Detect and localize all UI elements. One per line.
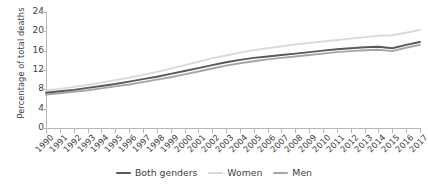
x-axis-tick-mark [337,129,338,133]
x-axis-tick-mark [323,129,324,133]
line-chart: Percentage of total deaths 04812162024 1… [0,0,428,189]
x-axis-tick-mark [378,129,379,133]
y-axis-tick-mark [42,51,46,52]
x-axis-tick-mark [240,129,241,133]
x-axis-tick-mark [309,129,310,133]
y-axis-tick-mark [42,70,46,71]
legend-swatch-icon [273,172,288,174]
legend-item-women[interactable]: Women [208,168,262,177]
x-axis-tick-mark [115,129,116,133]
x-axis-tick-mark [392,129,393,133]
x-axis-tick-mark [157,129,158,133]
x-axis-tick-mark [171,129,172,133]
x-axis-tick-mark [295,129,296,133]
x-axis-tick-mark [74,129,75,133]
x-axis-tick-mark [268,129,269,133]
y-axis-tick-mark [42,31,46,32]
legend-label: Men [292,168,312,177]
y-axis-tick-mark [42,12,46,13]
x-axis-tick-mark [254,129,255,133]
x-axis-tick-mark [46,129,47,133]
x-axis-tick-mark [365,129,366,133]
x-axis-tick-mark [143,129,144,133]
legend-item-men[interactable]: Men [273,168,312,177]
x-axis-tick-mark [198,129,199,133]
x-axis-tick-mark [88,129,89,133]
x-axis-tick-mark [60,129,61,133]
x-axis-tick-mark [212,129,213,133]
legend-label: Both genders [135,168,197,177]
x-axis-tick-mark [226,129,227,133]
x-axis-tick-mark [129,129,130,133]
x-axis-tick-labels: 1990199119921993199419951996199719981999… [0,0,428,189]
chart-legend: Both gendersWomenMen [0,168,428,177]
x-axis-tick-mark [281,129,282,133]
legend-label: Women [227,168,262,177]
legend-swatch-icon [116,172,131,174]
x-axis-tick-mark [101,129,102,133]
y-axis-tick-mark [42,89,46,90]
legend-item-both-genders[interactable]: Both genders [116,168,197,177]
x-axis-tick-mark [351,129,352,133]
x-axis-tick-mark [185,129,186,133]
x-axis-tick-mark [420,129,421,133]
x-axis-tick-mark [406,129,407,133]
y-axis-tick-mark [42,109,46,110]
legend-swatch-icon [208,172,223,174]
